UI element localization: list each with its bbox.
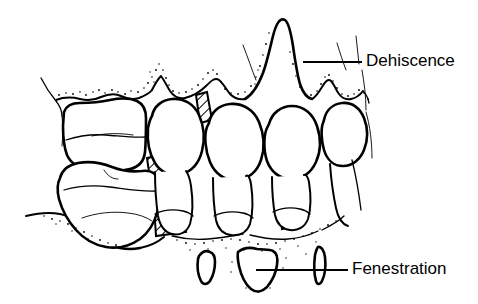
dehiscence-label: Dehiscence	[366, 51, 455, 70]
illustration-canvas: Dehiscence Fenestration	[0, 0, 478, 304]
tooth-premolar-1	[148, 99, 204, 175]
fenestration-label: Fenestration	[352, 259, 447, 278]
tooth-canine	[205, 104, 263, 180]
fenestration-window-right-sliver	[314, 247, 325, 284]
root-canine	[213, 175, 252, 235]
root-premolar-1	[155, 171, 192, 235]
root-premolar-2	[272, 175, 310, 230]
fenestration-window-left	[198, 251, 215, 284]
tooth-incisor-right	[322, 103, 367, 166]
tooth-premolar-2	[264, 106, 320, 179]
dental-illustration-figure: Dehiscence Fenestration	[0, 0, 478, 304]
